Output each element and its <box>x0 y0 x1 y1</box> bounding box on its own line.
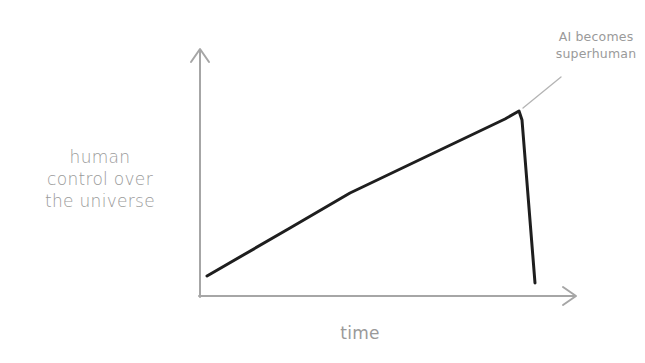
y-axis-label-line: control over <box>0 168 200 190</box>
annotation-line: superhuman <box>548 45 644 62</box>
annotation-leader <box>523 77 561 108</box>
control-curve <box>207 111 535 283</box>
y-axis-label: human control over the universe <box>0 146 200 212</box>
annotation-ai-superhuman: AI becomes superhuman <box>548 28 644 62</box>
y-axis-label-line: the universe <box>0 190 200 212</box>
x-axis-label: time <box>300 322 420 344</box>
annotation-line: AI becomes <box>548 28 644 45</box>
diagram: human control over the universe time AI … <box>0 0 645 363</box>
x-axis <box>199 287 576 305</box>
y-axis-label-line: human <box>0 146 200 168</box>
